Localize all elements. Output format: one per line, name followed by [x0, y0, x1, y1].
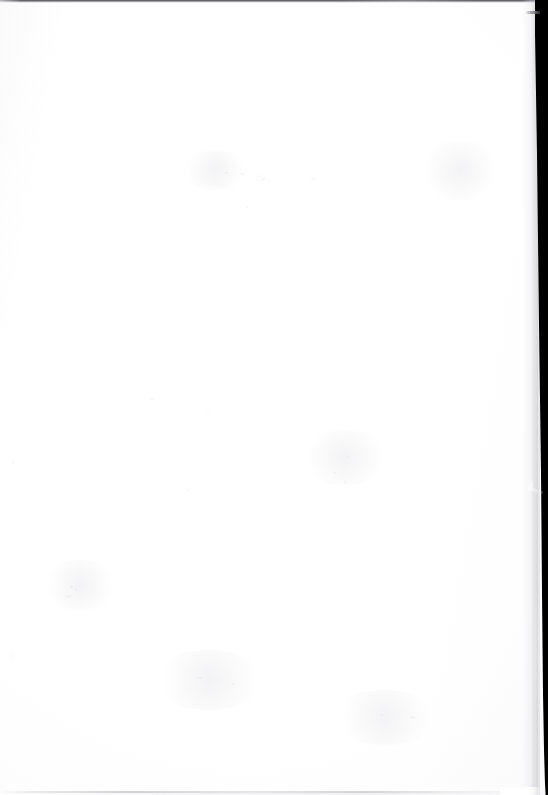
band-low-glow-artifact: [534, 600, 540, 720]
page-text-content: [46, 60, 486, 720]
band-bottom-taper: [500, 787, 548, 795]
top-scan-edge-line-highlight: [0, 0, 548, 3]
scanned-page: [0, 0, 548, 795]
top-right-tick-mark: [525, 11, 540, 14]
